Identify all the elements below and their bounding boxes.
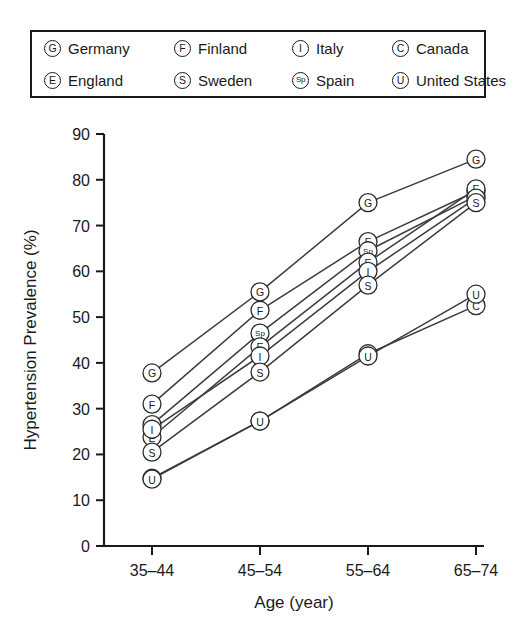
marker-g-icon xyxy=(143,364,161,382)
marker-label: E xyxy=(364,257,371,269)
marker-f-icon xyxy=(359,233,377,251)
marker-e-icon xyxy=(359,253,377,271)
marker-sp-icon xyxy=(143,416,161,434)
data-point-finland: F xyxy=(359,233,377,251)
legend-box: G Germany F Finland I Italy C Canada E E… xyxy=(30,30,486,98)
marker-f-icon xyxy=(251,301,269,319)
legend-label-sweden: Sweden xyxy=(198,72,252,89)
marker-label: S xyxy=(472,197,479,209)
data-point-finland: F xyxy=(251,301,269,319)
data-point-finland: F xyxy=(143,395,161,413)
x-tick-label: 55–64 xyxy=(346,562,391,579)
data-point-canada: C xyxy=(467,297,485,315)
y-tick-label: 0 xyxy=(81,538,90,555)
marker-f-icon xyxy=(143,395,161,413)
marker-sp-icon xyxy=(251,324,269,342)
data-point-sweden: S xyxy=(359,276,377,294)
marker-g-icon xyxy=(251,283,269,301)
x-tick-label: 35–44 xyxy=(130,562,175,579)
data-point-england: E xyxy=(467,180,485,198)
marker-s-icon xyxy=(251,363,269,381)
legend-item-finland: F Finland xyxy=(174,40,292,57)
marker-s-icon xyxy=(143,443,161,461)
data-point-germany: G xyxy=(251,283,269,301)
marker-c-icon xyxy=(467,297,485,315)
data-point-spain: Sp xyxy=(467,187,485,205)
series-line-finland xyxy=(152,191,476,404)
marker-label: S xyxy=(256,367,263,379)
marker-germany-icon: G xyxy=(44,40,61,57)
data-point-canada: C xyxy=(143,469,161,487)
series-line-canada xyxy=(152,306,476,479)
data-point-sweden: S xyxy=(143,443,161,461)
marker-c-icon xyxy=(359,345,377,363)
legend-label-united-states: United States xyxy=(416,72,506,89)
series-line-england xyxy=(152,189,476,437)
marker-s-icon xyxy=(359,276,377,294)
data-point-sweden: S xyxy=(467,194,485,212)
marker-i-icon xyxy=(143,420,161,438)
data-point-united-states: U xyxy=(359,347,377,365)
marker-u-icon xyxy=(359,347,377,365)
y-tick-label: 50 xyxy=(72,309,90,326)
marker-label: E xyxy=(472,183,479,195)
data-point-italy: I xyxy=(359,262,377,280)
marker-label: I xyxy=(367,266,370,278)
marker-spain-icon: Sp xyxy=(292,72,309,89)
marker-g-icon xyxy=(359,194,377,212)
marker-label: I xyxy=(475,193,478,205)
data-point-united-states: U xyxy=(467,285,485,303)
marker-label: C xyxy=(364,348,372,360)
marker-label: C xyxy=(472,300,480,312)
x-tick-label: 65–74 xyxy=(454,562,499,579)
marker-label: U xyxy=(148,474,156,486)
marker-label: Sp xyxy=(255,329,265,338)
x-tick-label: 45–54 xyxy=(238,562,283,579)
legend-label-spain: Spain xyxy=(316,72,354,89)
data-point-england: E xyxy=(359,253,377,271)
data-point-italy: I xyxy=(251,347,269,365)
marker-italy-icon: I xyxy=(292,40,309,57)
y-tick-label: 70 xyxy=(72,218,90,235)
legend-label-canada: Canada xyxy=(416,40,469,57)
y-tick-label: 10 xyxy=(72,492,90,509)
y-tick-label: 40 xyxy=(72,355,90,372)
marker-label: Sp xyxy=(363,247,373,256)
legend-label-italy: Italy xyxy=(316,40,344,57)
data-point-italy: I xyxy=(467,189,485,207)
marker-i-icon xyxy=(251,347,269,365)
marker-label: G xyxy=(472,154,480,166)
y-tick-label: 30 xyxy=(72,401,90,418)
marker-label: Sp xyxy=(471,192,481,201)
legend-item-germany: G Germany xyxy=(44,40,174,57)
marker-e-icon xyxy=(251,338,269,356)
series-line-sweden xyxy=(152,203,476,452)
marker-label: Sp xyxy=(147,421,157,430)
data-point-england: E xyxy=(143,428,161,446)
data-point-united-states: U xyxy=(143,470,161,488)
x-axis-title: Age (year) xyxy=(254,593,333,612)
marker-canada-icon: C xyxy=(392,40,409,57)
marker-label: G xyxy=(364,197,372,209)
data-point-italy: I xyxy=(143,420,161,438)
data-point-canada: C xyxy=(251,412,269,430)
marker-label: U xyxy=(256,416,264,428)
marker-label: I xyxy=(259,351,262,363)
marker-u-icon xyxy=(467,285,485,303)
marker-c-icon xyxy=(143,469,161,487)
marker-label: F xyxy=(257,305,263,317)
legend-item-sweden: S Sweden xyxy=(174,72,292,89)
data-point-spain: Sp xyxy=(359,242,377,260)
marker-finland-icon: F xyxy=(174,40,191,57)
marker-label: F xyxy=(149,399,155,411)
axis-lines xyxy=(104,134,484,546)
marker-united-states-icon: U xyxy=(392,72,409,89)
data-point-finland: F xyxy=(467,182,485,200)
marker-label: U xyxy=(364,351,372,363)
data-point-germany: G xyxy=(467,150,485,168)
data-point-spain: Sp xyxy=(143,416,161,434)
y-tick-label: 20 xyxy=(72,446,90,463)
marker-u-icon xyxy=(251,412,269,430)
marker-label: F xyxy=(365,236,371,248)
marker-c-icon xyxy=(251,412,269,430)
